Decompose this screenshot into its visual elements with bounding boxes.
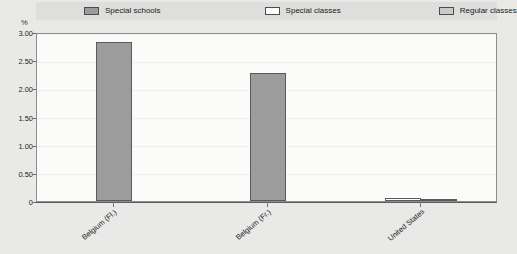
x-tick-label: Belgium (Fr.) xyxy=(234,207,273,241)
y-axis-unit-label: % xyxy=(21,18,28,27)
legend-swatch-special-schools xyxy=(84,7,99,15)
bar xyxy=(96,42,132,201)
chart-legend: Special schools Special classes Regular … xyxy=(36,2,497,20)
legend-item-special-classes: Special classes xyxy=(265,2,341,20)
legend-swatch-special-classes xyxy=(265,7,280,15)
y-axis-ticks xyxy=(0,33,40,202)
bar xyxy=(250,73,286,201)
x-tick-label: Belgium (Fl.) xyxy=(80,207,118,241)
legend-label-regular-classes: Regular classes xyxy=(460,6,517,16)
legend-item-regular-classes: Regular classes xyxy=(439,2,517,20)
bar xyxy=(385,198,421,201)
gridline xyxy=(37,34,496,35)
x-tick-mark xyxy=(113,202,114,207)
plot-area xyxy=(36,33,497,202)
legend-label-special-schools: Special schools xyxy=(105,6,161,16)
legend-swatch-regular-classes xyxy=(439,7,454,15)
bar xyxy=(421,199,457,201)
legend-label-special-classes: Special classes xyxy=(286,6,341,16)
x-tick-label: United States xyxy=(386,207,426,243)
legend-item-special-schools: Special schools xyxy=(84,2,161,20)
